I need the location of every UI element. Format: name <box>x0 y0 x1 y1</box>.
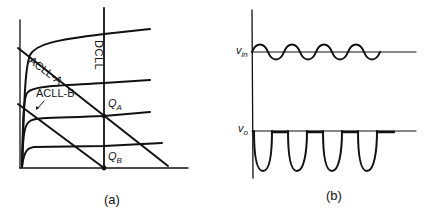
b-time-axis <box>252 10 253 178</box>
caption-a-text: (a) <box>104 192 120 207</box>
acll-b-label: ACLL-B <box>36 87 75 99</box>
vo-sub: o <box>244 128 248 137</box>
caption-a: (a) <box>104 192 120 207</box>
vo-pulse-3 <box>323 131 342 171</box>
q-point-a <box>102 114 106 118</box>
vo-pulse-1 <box>254 131 272 171</box>
q-point-b <box>102 166 107 171</box>
vin-label: vin <box>236 44 248 59</box>
acll-b-pointer <box>38 101 44 108</box>
q-b-sub: B <box>117 156 122 165</box>
ac-load-line-b <box>18 104 104 168</box>
dcll-label: DCLL <box>93 40 105 70</box>
dcll-text: DCLL <box>93 40 105 70</box>
vin-sub: in <box>242 50 248 59</box>
vo-pulse-2 <box>288 131 307 171</box>
vo-label: vo <box>238 122 248 137</box>
acll-b-text: ACLL-B <box>36 87 75 99</box>
q-a-sub: A <box>117 103 122 112</box>
q-a-label: QA <box>108 97 122 112</box>
vo-pulse-4 <box>358 131 377 171</box>
figure-canvas <box>0 0 427 215</box>
q-b-label: QB <box>108 150 122 165</box>
q-b-main: Q <box>108 150 117 162</box>
characteristic-curve-4 <box>22 143 162 167</box>
caption-b: (b) <box>326 188 342 203</box>
q-a-main: Q <box>108 97 117 109</box>
caption-b-text: (b) <box>326 188 342 203</box>
